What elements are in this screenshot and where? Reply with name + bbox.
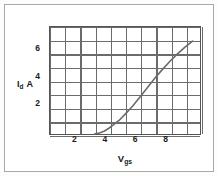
x-axis-title: Vgs xyxy=(118,153,132,165)
x-axis-tick-label: 8 xyxy=(163,134,168,144)
x-axis-tick-label: 2 xyxy=(72,134,77,144)
y-axis-tick-label: 2 xyxy=(29,98,40,108)
y-axis-tick-label: 6 xyxy=(29,43,40,53)
plot-area xyxy=(49,26,201,135)
figure-canvas: 2468246 IdA Vgs xyxy=(0,0,218,176)
series-id-vs-vgs xyxy=(95,41,192,134)
grid-line-vertical xyxy=(202,27,203,134)
y-axis-unit: A xyxy=(26,79,33,89)
data-curve-layer xyxy=(50,27,200,135)
x-axis-tick-label: 6 xyxy=(133,134,138,144)
y-axis-title: IdA xyxy=(17,79,33,90)
y-axis-title-subscript: d xyxy=(20,83,24,90)
x-axis-tick-label: 4 xyxy=(102,134,107,144)
figure-frame: 2468246 IdA Vgs xyxy=(4,4,214,172)
x-axis-title-subscript: gs xyxy=(124,158,132,165)
